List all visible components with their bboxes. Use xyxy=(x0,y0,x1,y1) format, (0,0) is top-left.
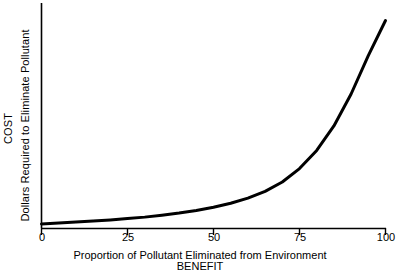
cost-curve xyxy=(42,21,386,224)
x-tick-label-50: 50 xyxy=(194,231,234,243)
x-tick-label-25: 25 xyxy=(108,231,148,243)
x-tick-label-100: 100 xyxy=(366,231,400,243)
x-tick-label-0: 0 xyxy=(22,231,62,243)
x-tick-label-75: 75 xyxy=(280,231,320,243)
x-axis-title-secondary: BENEFIT xyxy=(0,260,400,272)
chart-figure: COST Dollars Required to Eliminate Pollu… xyxy=(0,0,400,272)
